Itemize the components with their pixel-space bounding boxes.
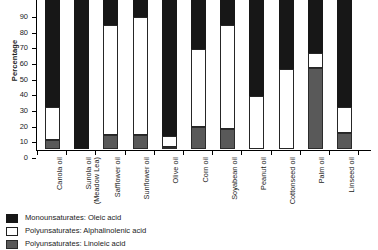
plot-area: [36, 0, 371, 151]
bar: [45, 0, 60, 150]
bar-segment: [308, 0, 323, 53]
legend-label: Polyunsaturates: Linoleic acid: [25, 240, 125, 248]
bar-segment: [74, 0, 89, 149]
bar-segment: [133, 135, 148, 149]
bar-segment: [337, 133, 352, 149]
bar-segment: [133, 17, 148, 135]
x-tick-mark: [183, 151, 184, 155]
bar-segment: [191, 127, 206, 149]
x-tick-label: Peanut oil: [260, 157, 268, 209]
legend-item: Monounsaturates: Oleic acid: [6, 212, 266, 224]
stacked-bar-chart: Percentage 0102030405060708090 Canola oi…: [0, 0, 378, 250]
x-tick-label: Corn oil: [202, 157, 210, 209]
y-tick-label: 10: [20, 139, 28, 147]
bar: [103, 0, 118, 150]
bar-segment: [191, 0, 206, 49]
bar: [162, 0, 177, 150]
legend-swatch-alpha: [6, 227, 18, 236]
bar-segment: [162, 136, 177, 147]
x-tick-mark: [95, 151, 96, 155]
bar-segment: [308, 53, 323, 67]
y-tick-label: 0: [24, 154, 28, 162]
bar-segment: [220, 25, 235, 128]
legend-item: Polyunsaturates: Alphalinolenic acid: [6, 225, 266, 237]
y-tick-label: 20: [20, 123, 28, 131]
y-tick-label: 90: [20, 13, 28, 21]
x-tick-label: Sunflower oil: [143, 157, 151, 209]
x-tick-mark: [241, 151, 242, 155]
x-tick-mark: [358, 151, 359, 155]
bar: [249, 0, 264, 150]
legend-swatch-lino: [6, 240, 18, 249]
x-axis-ticks: [36, 151, 372, 156]
bars-group: [37, 0, 371, 150]
x-tick-mark: [300, 151, 301, 155]
x-tick-mark: [271, 151, 272, 155]
x-tick-mark: [125, 151, 126, 155]
x-tick-mark: [37, 151, 38, 155]
x-tick-label: Soyabean oil: [231, 157, 239, 209]
y-tick-label: 80: [20, 29, 28, 37]
bar: [133, 0, 148, 150]
bar: [191, 0, 206, 150]
bar-segment: [45, 107, 60, 140]
bar-segment: [103, 0, 118, 25]
x-tick-mark: [154, 151, 155, 155]
legend-swatch-oleic: [6, 214, 18, 223]
x-tick-label: Cottonseed oil: [289, 157, 297, 209]
bar-segment: [162, 0, 177, 136]
bar-segment: [220, 0, 235, 25]
bar-segment: [103, 25, 118, 135]
y-tick-label: 30: [20, 107, 28, 115]
x-tick-label: Canola oil: [56, 157, 64, 209]
legend: Monounsaturates: Oleic acidPolyunsaturat…: [6, 212, 266, 250]
bar: [220, 0, 235, 150]
x-tick-mark: [66, 151, 67, 155]
bar-segment: [45, 140, 60, 149]
bar-segment: [162, 147, 177, 149]
bar-segment: [249, 0, 264, 96]
legend-item: Polyunsaturates: Linoleic acid: [6, 238, 266, 250]
x-tick-label: Sunola oil (Meadow Lea): [85, 157, 102, 209]
x-tick-label: Palm oil: [318, 157, 326, 209]
y-tick-label: 70: [20, 45, 28, 53]
x-tick-label: Linseed oil: [348, 157, 356, 209]
y-tick-label: 40: [20, 92, 28, 100]
x-tick-label: Safflower oil: [114, 157, 122, 209]
y-tick-label: 50: [20, 76, 28, 84]
bar-segment: [45, 0, 60, 107]
x-axis-tick-labels: Canola oilSunola oil (Meadow Lea)Safflow…: [36, 157, 372, 209]
bar-segment: [191, 49, 206, 127]
bar-segment: [220, 129, 235, 149]
bar-segment: [308, 68, 323, 149]
y-tick-label: 60: [20, 60, 28, 68]
bar: [279, 0, 294, 150]
bar-segment: [279, 69, 294, 149]
bar-segment: [103, 135, 118, 149]
x-tick-mark: [329, 151, 330, 155]
bar-segment: [337, 0, 352, 107]
bar-segment: [133, 0, 148, 17]
x-tick-label: Olive oil: [172, 157, 180, 209]
y-axis-tick-labels: 0102030405060708090: [0, 0, 32, 151]
legend-label: Polyunsaturates: Alphalinolenic acid: [25, 227, 146, 235]
bar-segment: [279, 0, 294, 69]
bar: [74, 0, 89, 150]
bar: [308, 0, 323, 150]
x-tick-mark: [212, 151, 213, 155]
bar: [337, 0, 352, 150]
bar-segment: [337, 107, 352, 134]
legend-label: Monounsaturates: Oleic acid: [25, 214, 121, 222]
bar-segment: [249, 96, 264, 149]
